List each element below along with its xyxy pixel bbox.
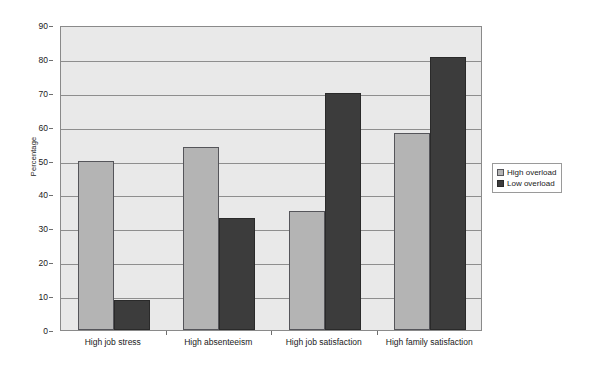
x-category-label: High family satisfaction (386, 337, 473, 347)
bar (114, 300, 150, 331)
chart-legend: High overloadLow overload (492, 163, 562, 193)
y-tick-label: 10 (39, 293, 48, 302)
y-tick-label: 40 (39, 191, 48, 200)
y-tick-label: 30 (39, 225, 48, 234)
bar (78, 161, 114, 330)
y-tick-label: 50 (39, 157, 48, 166)
legend-swatch-icon (497, 169, 504, 176)
bars-layer (61, 27, 481, 330)
y-tick-label: 20 (39, 259, 48, 268)
y-tick-mark (49, 331, 53, 332)
y-tick-mark (49, 26, 53, 27)
y-tick-label: 0 (43, 327, 48, 336)
plot-area (60, 26, 482, 331)
bar (219, 218, 255, 330)
legend-label: Low overload (507, 180, 555, 188)
y-tick-mark (49, 229, 53, 230)
bar (430, 57, 466, 330)
y-tick-mark (49, 162, 53, 163)
legend-label: High overload (507, 169, 556, 177)
legend-entry: Low overload (497, 178, 556, 189)
y-axis-tick-labels: 0102030405060708090 (20, 26, 53, 331)
bar-group (394, 27, 466, 330)
bar (325, 93, 361, 330)
bar-chart-figure: Percentage 0102030405060708090 High job … (0, 0, 595, 367)
y-tick-mark (49, 263, 53, 264)
legend-swatch-icon (497, 180, 504, 187)
y-tick-mark (49, 60, 53, 61)
y-tick-label: 60 (39, 123, 48, 132)
x-axis-category-labels: High job stressHigh absenteeismHigh job … (60, 337, 482, 353)
y-tick-label: 90 (39, 22, 48, 31)
x-tick-mark (166, 331, 167, 335)
y-tick-mark (49, 195, 53, 196)
y-tick-mark (49, 94, 53, 95)
x-tick-mark (271, 331, 272, 335)
y-tick-label: 70 (39, 90, 48, 99)
y-tick-label: 80 (39, 56, 48, 65)
legend-entry: High overload (497, 167, 556, 178)
y-tick-mark (49, 128, 53, 129)
x-category-label: High absenteeism (184, 337, 252, 347)
x-category-label: High job satisfaction (286, 337, 362, 347)
bar (183, 147, 219, 330)
bar-group (289, 27, 361, 330)
bar-group (78, 27, 150, 330)
bar (289, 211, 325, 330)
x-category-label: High job stress (85, 337, 141, 347)
x-tick-mark (377, 331, 378, 335)
bar (394, 133, 430, 330)
x-axis-tick-marks (60, 331, 482, 336)
bar-group (183, 27, 255, 330)
y-tick-mark (49, 297, 53, 298)
